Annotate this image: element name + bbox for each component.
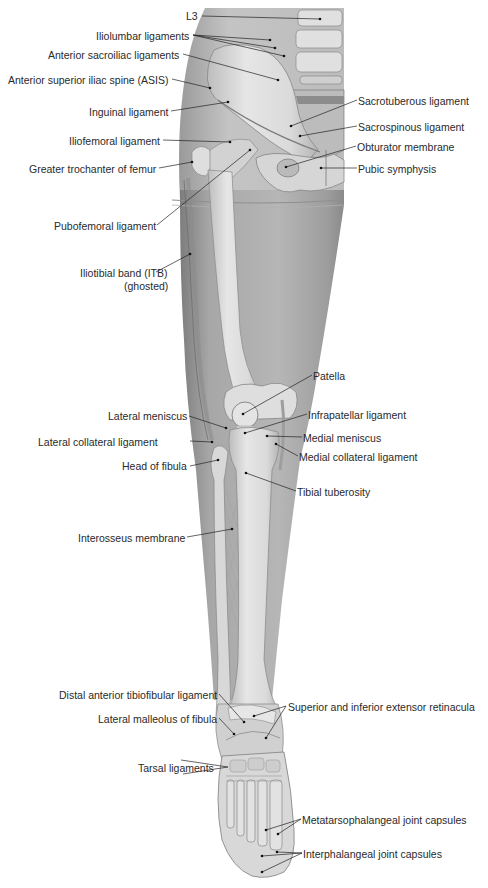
label-distal-anterior-tibiofibular-ligament: Distal anterior tibiofibular ligament: [59, 689, 217, 701]
label-interphalangeal-capsules: Interphalangeal joint capsules: [303, 848, 442, 860]
label-extensor-retinacula: Superior and inferior extensor retinacul…: [288, 701, 475, 713]
label-interosseus-membrane: Interosseus membrane: [78, 532, 185, 544]
label-lateral-meniscus: Lateral meniscus: [108, 410, 187, 422]
label-pubofemoral-ligament: Pubofemoral ligament: [54, 220, 156, 232]
label-anterior-sacroiliac-ligaments: Anterior sacroiliac ligaments: [48, 49, 179, 61]
label-medial-meniscus: Medial meniscus: [303, 432, 381, 444]
label-asis: Anterior superior iliac spine (ASIS): [8, 74, 168, 86]
label-lateral-collateral-ligament: Lateral collateral ligament: [38, 436, 158, 448]
label-sacrotuberous-ligament: Sacrotuberous ligament: [358, 95, 469, 107]
label-l3: L3: [186, 10, 198, 22]
label-sacrospinous-ligament: Sacrospinous ligament: [358, 121, 464, 133]
label-metatarsophalangeal-capsules: Metatarsophalangeal joint capsules: [302, 814, 467, 826]
label-inguinal-ligament: Inguinal ligament: [89, 106, 168, 118]
label-obturator-membrane: Obturator membrane: [357, 141, 454, 153]
label-iliotibial-band: Iliotibial band (ITB): [80, 267, 168, 279]
label-lateral-malleolus: Lateral malleolus of fibula: [98, 713, 217, 725]
label-itb-ghosted: (ghosted): [124, 280, 168, 292]
label-iliofemoral-ligament: Iliofemoral ligament: [69, 135, 160, 147]
label-tarsal-ligaments: Tarsal ligaments: [138, 762, 214, 774]
anatomy-figure: L3 Iliolumbar ligaments Anterior sacroil…: [0, 0, 488, 888]
label-head-of-fibula: Head of fibula: [122, 460, 187, 472]
label-pubic-symphysis: Pubic symphysis: [358, 163, 436, 175]
label-iliolumbar-ligaments: Iliolumbar ligaments: [96, 30, 189, 42]
label-tibial-tuberosity: Tibial tuberosity: [297, 486, 370, 498]
tarsal-bones: [230, 758, 280, 772]
label-infrapatellar-ligament: Infrapatellar ligament: [308, 409, 406, 421]
label-greater-trochanter: Greater trochanter of femur: [29, 163, 156, 175]
label-patella: Patella: [313, 370, 345, 382]
patella: [232, 402, 258, 428]
obturator-foramen: [277, 159, 299, 177]
label-medial-collateral-ligament: Medial collateral ligament: [299, 451, 417, 463]
